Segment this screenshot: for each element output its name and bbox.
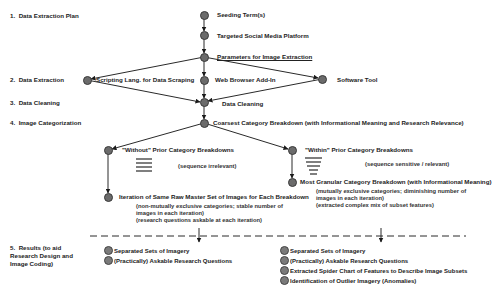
node-granular	[288, 178, 297, 187]
bullet-icon	[280, 276, 289, 285]
bullet-icon	[280, 256, 289, 265]
node-cleaning	[200, 98, 209, 107]
result-left-2: (Practically) Askable Research Questions	[104, 256, 232, 266]
label-granular: Most Granular Category Breakdown (with I…	[300, 178, 492, 186]
stage-1: 1. Data Extraction Plan	[10, 12, 79, 20]
node-platform	[200, 31, 209, 40]
note-within: (sequence sensitive / relevant)	[365, 161, 449, 169]
bullet-icon	[104, 256, 113, 265]
stacked-lines-icon	[136, 159, 152, 171]
result-right-3: Extracted Spider Chart of Features to De…	[280, 266, 467, 276]
note-granular-3: (extracted complex mix of subset feature…	[316, 202, 434, 210]
node-seeding	[200, 11, 209, 20]
node-within	[288, 146, 297, 155]
result-left-1: Separated Sets of Imagery	[104, 246, 189, 256]
bullet-icon	[104, 246, 113, 255]
label-coarsest: Coarsest Category Breakdown (with Inform…	[213, 119, 464, 127]
label-software: Software Tool	[337, 76, 377, 84]
stage-4: 4. Image Categorization	[10, 119, 81, 127]
tapering-lines-icon	[305, 158, 322, 174]
node-without	[104, 146, 113, 155]
node-browser	[200, 76, 209, 85]
node-scripting	[83, 76, 92, 85]
label-browser: Web Browser Add-In	[215, 76, 276, 84]
label-cleaning: Data Cleaning	[222, 100, 263, 108]
stage-3: 3. Data Cleaning	[10, 99, 60, 107]
label-parameters: Parameters for Image Extraction	[217, 53, 312, 61]
node-parameters	[200, 53, 209, 62]
result-right-4: Identification of Outlier Imagery (Anoma…	[280, 276, 416, 286]
label-platform: Targeted Social Media Platform	[217, 32, 309, 40]
bullet-icon	[280, 246, 289, 255]
label-without: "Without" Prior Category Breakdowns	[122, 146, 234, 154]
result-right-2: (Practically) Askable Research Questions	[280, 256, 408, 266]
node-software	[318, 75, 327, 84]
node-coarsest	[200, 119, 209, 128]
label-scripting: Scripting Lang. for Data Scraping	[96, 76, 194, 84]
result-right-1: Separated Sets of Imagery	[280, 246, 365, 256]
label-within: "Within" Prior Category Breakdowns	[305, 146, 413, 154]
note-without: (sequence irrelevant)	[178, 163, 236, 171]
stage-2: 2. Data Extraction	[10, 76, 64, 84]
label-iteration: Iteration of Same Raw Master Set of Imag…	[119, 193, 309, 201]
label-seeding: Seeding Term(s)	[217, 11, 265, 19]
bullet-icon	[280, 266, 289, 275]
note-iteration-3: (research questions askable at each iter…	[136, 217, 262, 225]
node-iteration	[104, 193, 113, 202]
stage-5: 5. Results (to aid Research Design and I…	[10, 244, 82, 268]
